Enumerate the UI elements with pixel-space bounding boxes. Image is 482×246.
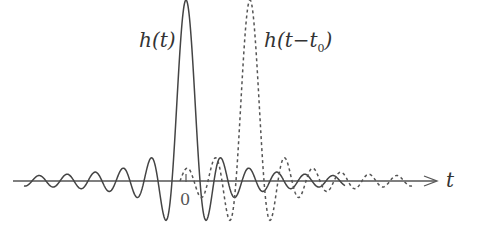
origin-label: 0 [180,192,190,208]
label-h-t: h(t) [139,30,176,50]
sinc-diagram: h(t) h(t−t0) t 0 [0,0,482,246]
label-h-shift-main: h(t−t [264,28,318,52]
axis-label-t: t [446,170,454,190]
label-h-shift-close: ) [325,28,333,52]
label-h-t-minus-t0: h(t−t0) [264,30,332,54]
plot-area [0,0,482,246]
label-h-shift-sub: 0 [318,42,325,55]
